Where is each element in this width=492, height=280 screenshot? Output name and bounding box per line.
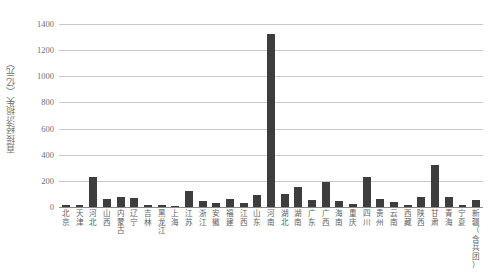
bar: [294, 187, 302, 207]
bar: [363, 177, 371, 207]
bar: [404, 205, 412, 207]
bar: [322, 182, 330, 207]
bar: [76, 205, 84, 207]
bar: [89, 177, 97, 207]
x-tick-label: 西藏: [401, 210, 415, 227]
bar: [335, 201, 343, 207]
bar: [185, 191, 193, 207]
bar: [445, 197, 453, 207]
x-tick-label: 江西: [237, 210, 251, 227]
x-tick-label: 河南: [264, 210, 278, 227]
y-tick-label: 1400: [14, 20, 54, 29]
bar: [459, 205, 467, 207]
x-tick-label: 山西: [100, 210, 114, 227]
x-axis-tick-labels: 北京天津河北山西内蒙古辽宁吉林黑龙江上海江苏浙江安徽福建江西山东河南湖北湖南广东…: [59, 210, 483, 278]
bar: [226, 199, 234, 207]
y-tick-label: 0: [14, 203, 54, 212]
x-tick-label: 山东: [250, 210, 264, 227]
bar: [171, 206, 179, 207]
x-tick-label: 内蒙古: [114, 210, 128, 236]
x-tick-label: 辽宁: [127, 210, 141, 227]
y-tick-label: 1200: [14, 46, 54, 55]
bar: [390, 202, 398, 207]
bar: [117, 197, 125, 207]
bar: [240, 203, 248, 207]
x-tick-label: 甘肃: [428, 210, 442, 227]
x-tick-label: 广西: [319, 210, 333, 227]
bar: [212, 203, 220, 207]
bars-layer: [59, 24, 483, 207]
x-tick-label: 广东: [305, 210, 319, 227]
x-tick-label: 海南: [333, 210, 347, 227]
x-tick-label: 吉林: [141, 210, 155, 227]
x-tick-label: 黑龙江: [155, 210, 169, 236]
y-tick-label: 400: [14, 150, 54, 159]
y-tick-label: 600: [14, 124, 54, 133]
x-tick-label: 重庆: [346, 210, 360, 227]
x-tick-label: 河北: [86, 210, 100, 227]
bar: [130, 198, 138, 207]
x-tick-label: 湖北: [278, 210, 292, 227]
bar-chart: 直接经济损失（亿元） 0200400600800100012001400 北京天…: [0, 0, 492, 280]
bar: [253, 195, 261, 207]
x-tick-label: 四川: [360, 210, 374, 227]
y-tick-label: 1000: [14, 72, 54, 81]
x-tick-label: 安徽: [209, 210, 223, 227]
x-tick-label: 湖南: [292, 210, 306, 227]
bar: [144, 205, 152, 207]
x-tick-label: 江苏: [182, 210, 196, 227]
x-tick-label: 宁夏: [456, 210, 470, 227]
bar: [281, 194, 289, 207]
bar: [431, 165, 439, 207]
x-tick-label: 新疆（含兵团）: [469, 210, 483, 270]
x-tick-label: 云南: [387, 210, 401, 227]
x-tick-label: 北京: [59, 210, 73, 227]
y-tick-label: 200: [14, 176, 54, 185]
x-tick-label: 福建: [223, 210, 237, 227]
bar: [472, 200, 480, 207]
y-tick-label: 800: [14, 98, 54, 107]
bar: [199, 201, 207, 207]
bar: [103, 199, 111, 207]
bar: [349, 204, 357, 207]
axis-baseline: [59, 207, 483, 208]
x-tick-label: 浙江: [196, 210, 210, 227]
x-tick-label: 天津: [73, 210, 87, 227]
x-tick-label: 贵州: [374, 210, 388, 227]
x-tick-label: 陕西: [415, 210, 429, 227]
bar: [308, 200, 316, 207]
bar: [417, 197, 425, 207]
y-axis-tick-labels: 0200400600800100012001400: [12, 24, 54, 207]
bar: [158, 205, 166, 207]
bar: [267, 34, 275, 207]
x-tick-label: 上海: [168, 210, 182, 227]
bar: [62, 205, 70, 207]
x-tick-label: 青海: [442, 210, 456, 227]
bar: [376, 199, 384, 207]
